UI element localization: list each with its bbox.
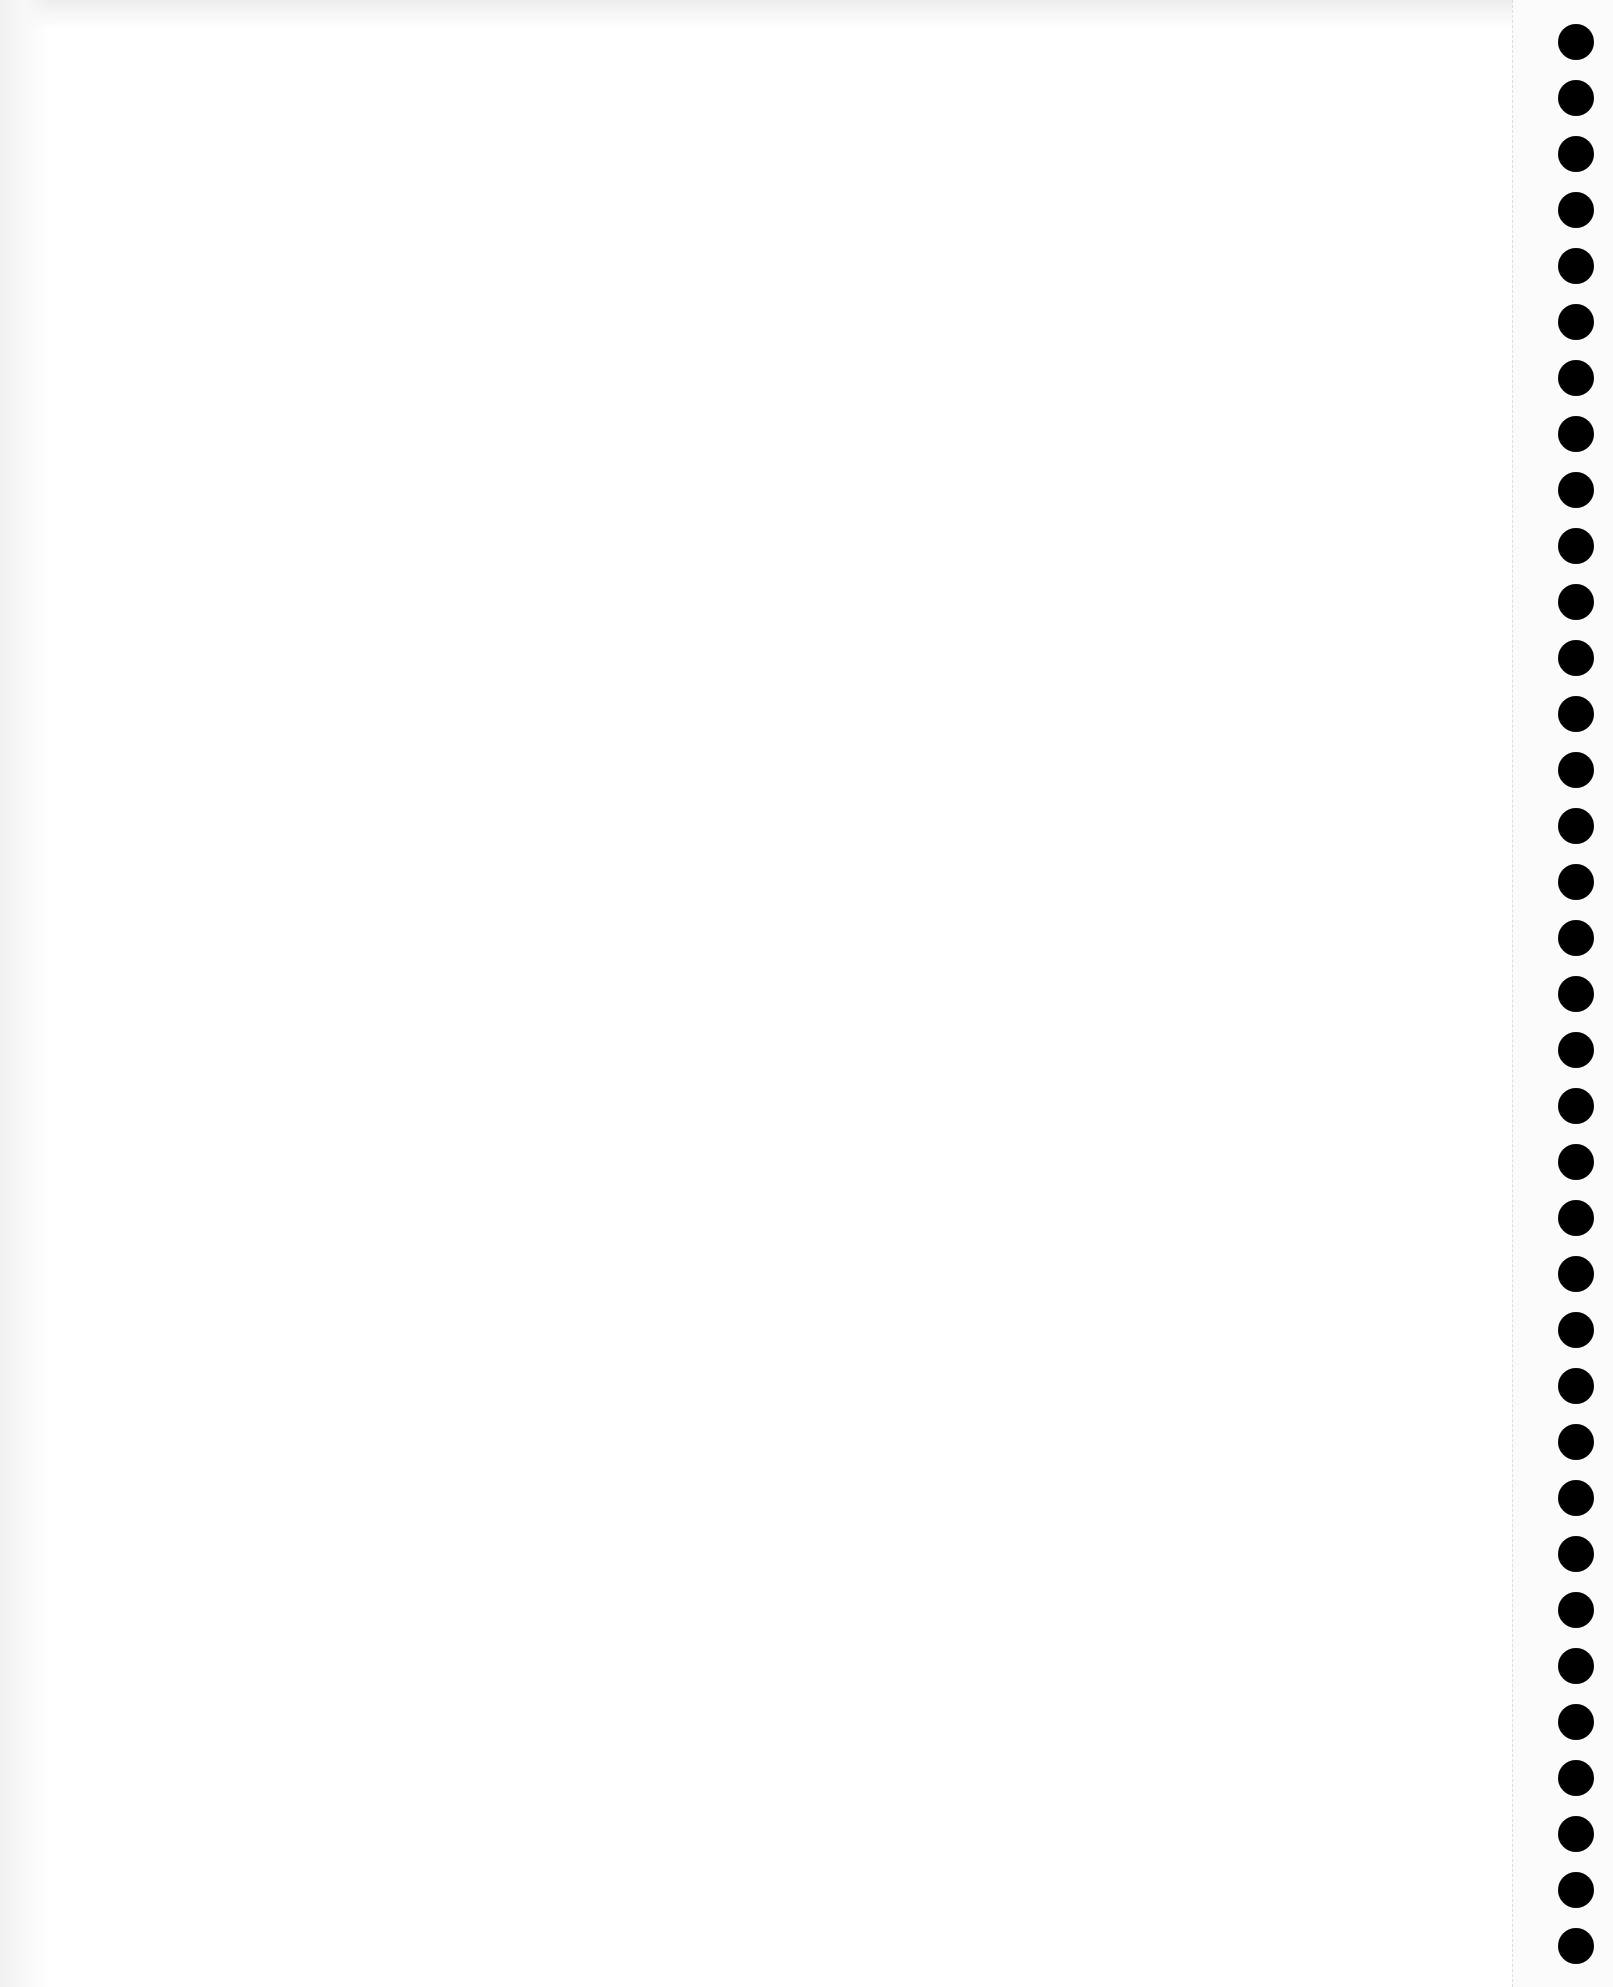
feed-hole-icon <box>1558 1928 1594 1964</box>
feed-hole-icon <box>1558 1480 1594 1516</box>
feed-hole-icon <box>1558 472 1594 508</box>
feed-hole-icon <box>1558 696 1594 732</box>
feed-hole-icon <box>1558 248 1594 284</box>
feed-hole-icon <box>1558 1312 1594 1348</box>
feed-hole-icon <box>1558 80 1594 116</box>
scan-shadow-left <box>0 0 50 1987</box>
feed-hole-icon <box>1558 1200 1594 1236</box>
feed-hole-icon <box>1558 584 1594 620</box>
feed-hole-icon <box>1558 24 1594 60</box>
feed-hole-icon <box>1558 1536 1594 1572</box>
feed-hole-icon <box>1558 752 1594 788</box>
feed-hole-icon <box>1558 1872 1594 1908</box>
feed-hole-icon <box>1558 1648 1594 1684</box>
feed-hole-icon <box>1558 192 1594 228</box>
feed-hole-icon <box>1558 976 1594 1012</box>
scan-shadow-top <box>0 0 1613 30</box>
feed-hole-icon <box>1558 1144 1594 1180</box>
feed-hole-icon <box>1558 136 1594 172</box>
feed-hole-icon <box>1558 1592 1594 1628</box>
feed-hole-icon <box>1558 1424 1594 1460</box>
feed-hole-icon <box>1558 360 1594 396</box>
feed-hole-icon <box>1558 1368 1594 1404</box>
feed-hole-icon <box>1558 304 1594 340</box>
feed-holes-column <box>1558 24 1598 1984</box>
feed-hole-icon <box>1558 920 1594 956</box>
feed-hole-icon <box>1558 1760 1594 1796</box>
feed-hole-icon <box>1558 528 1594 564</box>
feed-hole-icon <box>1558 864 1594 900</box>
perforation-line <box>1512 0 1513 1987</box>
feed-hole-icon <box>1558 1088 1594 1124</box>
feed-hole-icon <box>1558 808 1594 844</box>
blank-page <box>0 0 1613 1987</box>
feed-hole-icon <box>1558 640 1594 676</box>
feed-hole-icon <box>1558 1816 1594 1852</box>
feed-hole-icon <box>1558 1032 1594 1068</box>
feed-hole-icon <box>1558 1704 1594 1740</box>
feed-hole-icon <box>1558 416 1594 452</box>
feed-hole-icon <box>1558 1256 1594 1292</box>
